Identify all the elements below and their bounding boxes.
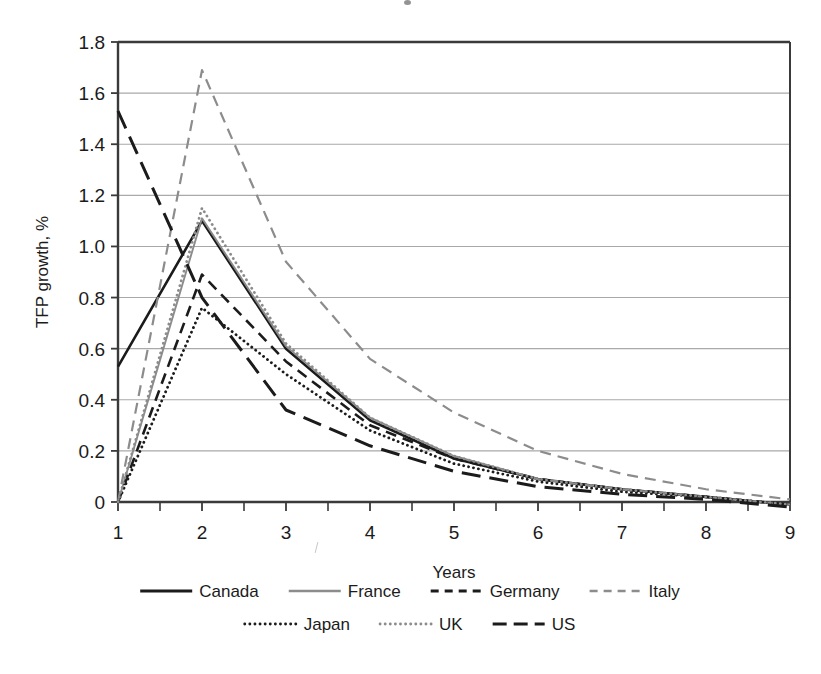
legend-item-germany: Germany — [431, 582, 560, 601]
legend-label-france: France — [348, 582, 401, 601]
x-tick-label: 1 — [113, 522, 124, 543]
legend-item-us: US — [493, 615, 576, 634]
data-series-group — [118, 70, 790, 507]
legend-item-japan: Japan — [245, 615, 350, 634]
legend-label-japan: Japan — [304, 615, 350, 634]
series-line-uk — [118, 208, 790, 504]
scan-artifact-speck — [404, 0, 411, 5]
y-tick-label: 1.6 — [79, 83, 105, 104]
y-tick-label: 1.8 — [79, 32, 105, 53]
y-axis-title: TFP growth, % — [33, 216, 52, 328]
legend-label-us: US — [552, 615, 576, 634]
x-tick-label: 4 — [365, 522, 376, 543]
x-tick-label: 2 — [197, 522, 208, 543]
y-tick-label: 0.2 — [79, 441, 105, 462]
x-tick-label: 8 — [701, 522, 712, 543]
legend-label-germany: Germany — [490, 582, 560, 601]
x-tick-label: 5 — [449, 522, 460, 543]
legend-item-france: France — [289, 582, 401, 601]
legend-item-canada: Canada — [140, 582, 259, 601]
x-axis-title: Years — [433, 563, 476, 582]
legend-label-italy: Italy — [649, 582, 681, 601]
series-line-japan — [118, 308, 790, 505]
legend-item-italy: Italy — [590, 582, 681, 601]
gridlines-group — [118, 93, 790, 451]
series-line-italy — [118, 70, 790, 502]
series-line-us — [118, 111, 790, 507]
y-tick-label: 1.4 — [79, 134, 106, 155]
chart-figure: 1.81.61.41.21.00.80.60.40.20123456789 TF… — [0, 0, 821, 674]
x-tick-label: 3 — [281, 522, 292, 543]
legend-item-uk: UK — [380, 615, 463, 634]
y-tick-label: 0.8 — [79, 288, 105, 309]
legend-label-canada: Canada — [199, 582, 259, 601]
y-tick-label: 0.6 — [79, 339, 105, 360]
axis-group — [111, 42, 790, 511]
legend-group: CanadaFranceGermanyItalyJapanUKUS — [140, 582, 680, 634]
x-tick-label: 9 — [785, 522, 796, 543]
x-tick-label: 6 — [533, 522, 544, 543]
y-tick-label: 1.0 — [79, 236, 105, 257]
y-tick-label: 0.4 — [79, 390, 106, 411]
legend-label-uk: UK — [439, 615, 463, 634]
series-line-germany — [118, 275, 790, 505]
y-tick-label: 0 — [94, 492, 105, 513]
x-tick-label: 7 — [617, 522, 628, 543]
series-line-france — [118, 218, 790, 504]
tfp-growth-line-chart: 1.81.61.41.21.00.80.60.40.20123456789 TF… — [0, 0, 821, 674]
series-line-canada — [118, 221, 790, 505]
y-tick-label: 1.2 — [79, 185, 105, 206]
